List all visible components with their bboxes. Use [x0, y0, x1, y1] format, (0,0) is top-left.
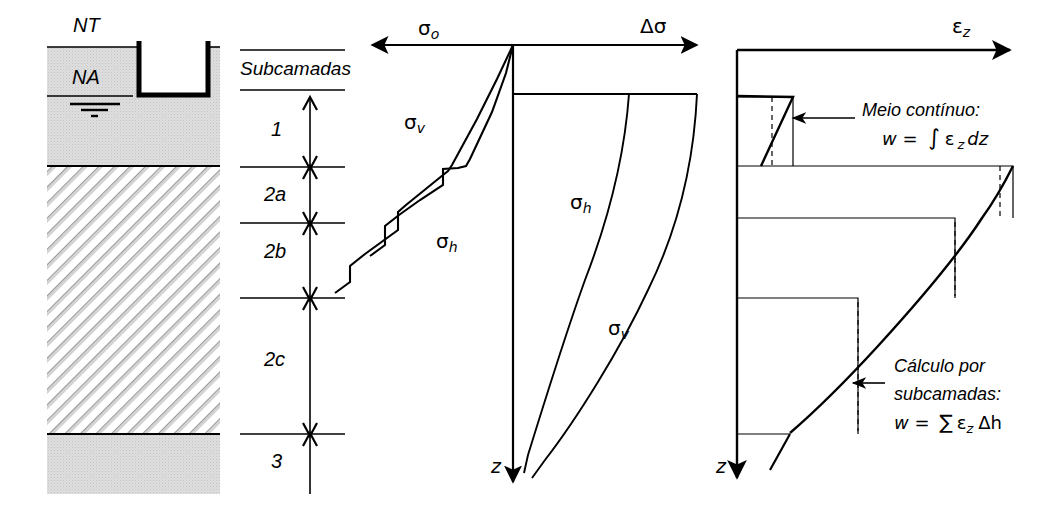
epsilon-glyph: ε [952, 14, 963, 38]
epsilon-continuous-curve-upper [737, 96, 793, 166]
figure-canvas: NT NA Subcamadas 1 2a 2b 2c 3 σo σv σh z… [0, 0, 1051, 513]
stress-increment-chart [513, 45, 697, 478]
delta-sigma-h-curve-label: σh [570, 190, 592, 216]
delta-sigma-h-subscript: h [583, 200, 592, 216]
epsilon-continuous-curve-tail [770, 434, 790, 470]
delta-sigma-axis-label: Δσ [640, 14, 666, 38]
delta-h-symbol: Δh [973, 412, 1002, 433]
integral-icon: ∫ [923, 125, 944, 150]
sigma-o-glyph: σ [418, 16, 431, 40]
excavation-footing [139, 41, 208, 95]
sum-icon: ∑ [935, 410, 956, 434]
sublayer-calc-note-line1: Cálculo por [894, 352, 1002, 380]
continuous-medium-note: Meio contínuo: w = ∫εzdz [862, 96, 988, 159]
epsilon-step-sublayer-2a [737, 166, 1013, 218]
delta-sigma-v-subscript: v [621, 326, 629, 342]
sublayer-label-2b: 2b [264, 240, 286, 263]
epsilon-subscript-continuous: z [954, 137, 967, 152]
continuous-medium-note-line1: Meio contínuo: [862, 96, 988, 124]
sublayer-calc-note-line3: w = ∑εzΔh [894, 408, 1002, 443]
sigma-h-curve [370, 45, 513, 256]
delta-sigma-v-curve [532, 94, 697, 478]
delta-sigma-v-glyph: σ [608, 316, 621, 340]
sublayer-label-3: 3 [271, 450, 282, 473]
ground-level-label: NT [73, 14, 100, 37]
soil-layer-middle [47, 166, 220, 434]
sigma-v-glyph: σ [404, 110, 417, 134]
sublayer-label-2c: 2c [264, 348, 285, 371]
epsilon-step-sublayer-2b [737, 218, 955, 298]
sublayer-label-2a: 2a [264, 183, 286, 206]
sublayer-label-1: 1 [271, 118, 282, 141]
sigma-v-curve-label: σv [404, 110, 425, 136]
soil-profile-column [47, 41, 220, 494]
subcamadas-header: Subcamadas [240, 58, 351, 80]
sublayer-calc-note: Cálculo por subcamadas: w = ∑εzΔh [894, 352, 1002, 443]
epsilon-step-sublayer-2c [737, 298, 858, 434]
sigma-h-glyph: σ [436, 229, 449, 253]
sublayers-column [240, 50, 345, 494]
delta-sigma-h-glyph: σ [570, 190, 583, 214]
sigma-h-subscript: h [449, 239, 458, 255]
continuous-medium-note-line2: w = ∫εzdz [862, 124, 988, 159]
water-table-label: NA [72, 66, 100, 89]
sigma-h-curve-label: σh [436, 229, 458, 255]
soil-layer-bottom [47, 434, 220, 494]
z-axis-label-left: z [491, 455, 501, 477]
epsilon-z-subscript: z [963, 24, 970, 40]
dz-symbol: dz [967, 128, 988, 149]
sigma-v-curve [335, 45, 513, 293]
w-symbol-sublayer: w = [894, 412, 935, 433]
epsilon-z-axis-label: εz [952, 14, 970, 40]
epsilon-symbol-sublayer: ε [957, 412, 967, 433]
sigma-o-subscript: o [431, 26, 440, 42]
sigma-v-subscript: v [417, 120, 425, 136]
delta-sigma-v-curve-label: σv [608, 316, 629, 342]
z-axis-label-right: z [716, 455, 726, 477]
sublayer-calc-note-line2: subcamadas: [894, 380, 1002, 408]
epsilon-symbol-continuous: ε [945, 128, 955, 149]
sigma-o-axis-label: σo [418, 16, 439, 42]
w-symbol-continuous: w = [882, 128, 923, 149]
